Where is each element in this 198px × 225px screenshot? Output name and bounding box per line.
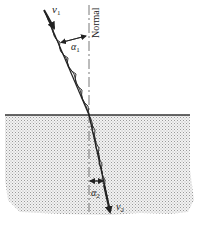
normal-label: Normal [90, 7, 101, 38]
alpha1-label: α1 [71, 41, 80, 54]
refraction-diagram: v1 α1 Normal α2 v2 [0, 0, 198, 225]
v1-label: v1 [52, 3, 61, 17]
diagram-canvas: v1 α1 Normal α2 v2 [0, 0, 198, 225]
incident-ray [44, 10, 89, 115]
